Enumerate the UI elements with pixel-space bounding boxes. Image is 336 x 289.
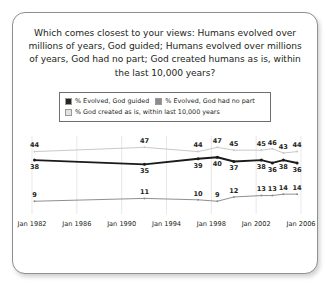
data-label-evolved-god-guided: 36 xyxy=(293,166,302,174)
data-label-evolved-no-part: 14 xyxy=(279,184,288,192)
data-label-evolved-no-part: 11 xyxy=(140,188,149,196)
legend-label-evolved-no-part: % Evolved, God had no part xyxy=(165,96,255,107)
data-label-god-created: 43 xyxy=(279,143,288,151)
data-label-god-created: 47 xyxy=(213,137,222,145)
legend-swatch-god-created xyxy=(65,109,72,116)
data-label-evolved-no-part: 12 xyxy=(229,187,238,195)
legend-row-primary: % Evolved, God guided % Evolved, God had… xyxy=(65,96,266,107)
data-label-evolved-god-guided: 38 xyxy=(257,163,266,171)
x-tick-label: Jan 1982 xyxy=(17,220,46,228)
data-label-evolved-no-part: 14 xyxy=(293,184,302,192)
data-label-evolved-no-part: 13 xyxy=(268,185,277,193)
legend-item-god-created[interactable]: % God created as is, within last 10,000 … xyxy=(65,107,220,118)
chart-area: 4447444745454643443835394037383638369111… xyxy=(13,132,318,242)
data-label-evolved-no-part: 9 xyxy=(32,191,37,199)
x-tick-label: Jan 1986 xyxy=(62,220,91,228)
legend-label-god-created: % God created as is, within last 10,000 … xyxy=(75,107,220,118)
x-tick-label: Jan 2002 xyxy=(242,220,271,228)
legend-label-evolved-god-guided: % Evolved, God guided xyxy=(75,96,149,107)
data-label-evolved-god-guided: 36 xyxy=(268,166,277,174)
data-label-god-created: 47 xyxy=(140,137,149,145)
legend-swatch-evolved-god-guided xyxy=(65,98,72,105)
data-label-god-created: 44 xyxy=(30,141,39,149)
x-tick-label: Jan 1998 xyxy=(197,220,226,228)
x-axis-tick-labels: Jan 1982Jan 1986Jan 1990Jan 1994Jan 1998… xyxy=(29,220,304,234)
chart-legend: % Evolved, God guided % Evolved, God had… xyxy=(59,92,271,122)
legend-swatch-evolved-no-part xyxy=(155,98,162,105)
data-label-god-created: 45 xyxy=(229,140,238,148)
legend-item-evolved-no-part[interactable]: % Evolved, God had no part xyxy=(155,96,255,107)
data-label-god-created: 44 xyxy=(293,141,302,149)
legend-item-evolved-god-guided[interactable]: % Evolved, God guided xyxy=(65,96,149,107)
data-label-evolved-god-guided: 35 xyxy=(140,167,149,175)
x-tick-label: Jan 1990 xyxy=(107,220,136,228)
data-label-evolved-god-guided: 40 xyxy=(213,160,222,168)
data-label-evolved-god-guided: 39 xyxy=(194,162,203,170)
x-tick-label: Jan 2006 xyxy=(286,220,315,228)
data-label-evolved-no-part: 9 xyxy=(215,191,220,199)
x-tick-label: Jan 1994 xyxy=(152,220,181,228)
data-label-evolved-god-guided: 37 xyxy=(229,164,238,172)
data-label-evolved-no-part: 10 xyxy=(194,190,203,198)
chart-card: Which comes closest to your views: Human… xyxy=(12,12,318,274)
legend-row-secondary: % God created as is, within last 10,000 … xyxy=(65,107,266,118)
data-label-god-created: 46 xyxy=(268,139,277,147)
data-label-evolved-god-guided: 38 xyxy=(279,163,288,171)
data-label-evolved-no-part: 13 xyxy=(257,185,266,193)
data-label-god-created: 45 xyxy=(257,140,266,148)
page-title: Which comes closest to your views: Human… xyxy=(27,27,303,80)
data-label-god-created: 44 xyxy=(194,141,203,149)
data-label-evolved-god-guided: 38 xyxy=(30,163,39,171)
